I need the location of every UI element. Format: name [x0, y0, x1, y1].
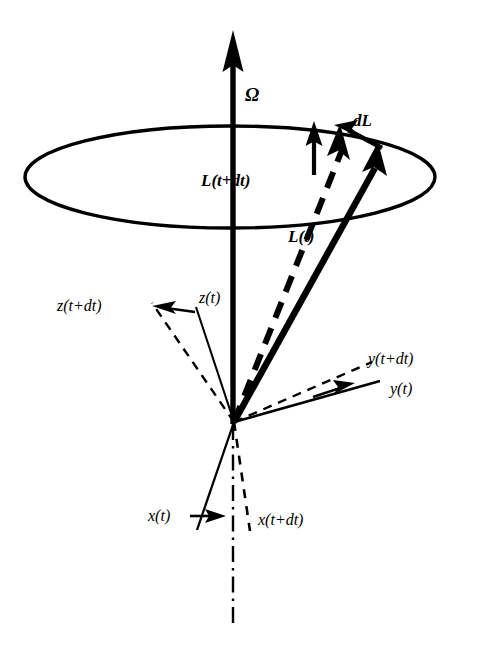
- label-L-t-text: L(t): [288, 227, 314, 246]
- label-y-t: y(t): [390, 381, 412, 397]
- angular-momentum-next-vector: [234, 124, 350, 422]
- label-x-t: x(t): [148, 508, 170, 524]
- diagram-canvas: [0, 0, 485, 646]
- angular-momentum-current-vector: [234, 142, 387, 422]
- label-dL-text: dL: [353, 111, 372, 130]
- physics-diagram-figure: Ω dL L(t+dt) L(t) z(t+dt) z(t) y(t+dt) y…: [0, 0, 485, 646]
- label-x-t-dt: x(t+dt): [258, 512, 303, 528]
- axis-z-current: [196, 307, 234, 422]
- label-omega: Ω: [245, 85, 259, 104]
- label-y-t-dt: y(t+dt): [368, 351, 413, 367]
- label-z-t-dt: z(t+dt): [57, 298, 102, 314]
- label-dL: dL: [353, 112, 372, 129]
- label-L-t: L(t): [288, 228, 314, 245]
- pointer-arrow-x: [190, 509, 226, 523]
- label-L-t-dt-text: L(t+dt): [201, 171, 250, 190]
- axis-z-next: [152, 303, 234, 422]
- axis-x-next: [234, 422, 250, 531]
- label-z-t: z(t): [199, 290, 220, 306]
- label-L-t-dt: L(t+dt): [201, 172, 250, 189]
- axis-y-next: [234, 362, 372, 422]
